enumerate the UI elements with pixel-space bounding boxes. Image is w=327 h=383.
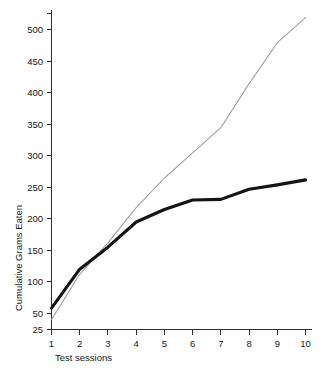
y-axis-group: 25 50 100 150 200 250 300 350 400 450 50… bbox=[27, 10, 51, 335]
data-line-thin bbox=[52, 18, 306, 320]
x-tick-label-4: 4 bbox=[134, 338, 139, 349]
y-tick-label-25: 25 bbox=[32, 324, 43, 335]
x-tick-label-3: 3 bbox=[105, 338, 110, 349]
x-tick-label-10: 10 bbox=[300, 338, 311, 349]
figure-caption-fragment bbox=[2, 374, 152, 383]
x-tick-label-8: 8 bbox=[246, 338, 251, 349]
y-tick-label-450: 450 bbox=[27, 56, 43, 67]
data-line-thick bbox=[52, 180, 306, 308]
y-tick-label-250: 250 bbox=[27, 182, 43, 193]
line-chart-plot: 25 50 100 150 200 250 300 350 400 450 50… bbox=[0, 0, 327, 383]
y-tick-label-350: 350 bbox=[27, 119, 43, 130]
y-tick-label-50: 50 bbox=[32, 308, 43, 319]
x-tick-label-1: 1 bbox=[49, 338, 54, 349]
y-tick-label-150: 150 bbox=[27, 245, 43, 256]
y-tick-label-100: 100 bbox=[27, 276, 43, 287]
x-tick-label-7: 7 bbox=[218, 338, 223, 349]
y-tick-marks bbox=[47, 13, 52, 329]
y-tick-label-300: 300 bbox=[27, 150, 43, 161]
x-tick-label-9: 9 bbox=[275, 338, 280, 349]
y-tick-label-500: 500 bbox=[27, 24, 43, 35]
x-axis-group: 1 2 3 4 5 6 7 8 9 10 bbox=[49, 330, 312, 350]
x-tick-label-2: 2 bbox=[77, 338, 82, 349]
y-tick-label-400: 400 bbox=[27, 87, 43, 98]
x-axis-title: Test sessions bbox=[55, 352, 112, 363]
x-tick-marks bbox=[52, 330, 306, 335]
y-tick-label-200: 200 bbox=[27, 213, 43, 224]
x-tick-label-6: 6 bbox=[190, 338, 195, 349]
x-tick-label-5: 5 bbox=[162, 338, 167, 349]
y-axis-title: Cumulative Grams Eaten bbox=[13, 205, 24, 311]
chart-figure: 25 50 100 150 200 250 300 350 400 450 50… bbox=[0, 0, 327, 383]
